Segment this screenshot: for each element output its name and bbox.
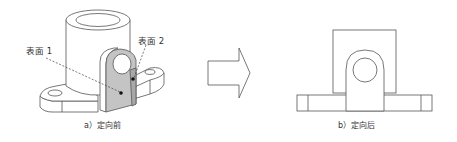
tab-hole-front [353, 58, 377, 82]
caption-after: b）定向后 [338, 120, 375, 130]
surface-1-dot [119, 91, 123, 95]
figure-canvas: 表面 1 表面 2 a）定向前 b）定向后 [0, 0, 457, 142]
hollow-right-arrow-icon [208, 48, 250, 98]
caption-before: a）定向前 [84, 120, 121, 130]
front-view: b）定向后 [297, 30, 432, 130]
label-surface-2: 表面 2 [138, 36, 164, 46]
label-surface-1: 表面 1 [26, 46, 52, 56]
isometric-part: 表面 1 表面 2 a）定向前 [26, 10, 164, 130]
tab-hole [113, 54, 131, 74]
surface-2-dot [131, 77, 135, 81]
